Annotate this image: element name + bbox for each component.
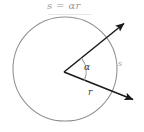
arc-s-label: s — [118, 60, 122, 68]
radius-r-label: r — [88, 88, 92, 97]
upper-ray — [64, 24, 124, 73]
arc-length-formula-label: s = αr — [47, 1, 81, 11]
circle-outline — [13, 17, 117, 121]
lower-ray — [64, 72, 133, 100]
figure-canvas — [0, 0, 144, 132]
geometry-figure: s = αr α r s — [0, 0, 144, 132]
angle-alpha-label: α — [84, 63, 90, 72]
